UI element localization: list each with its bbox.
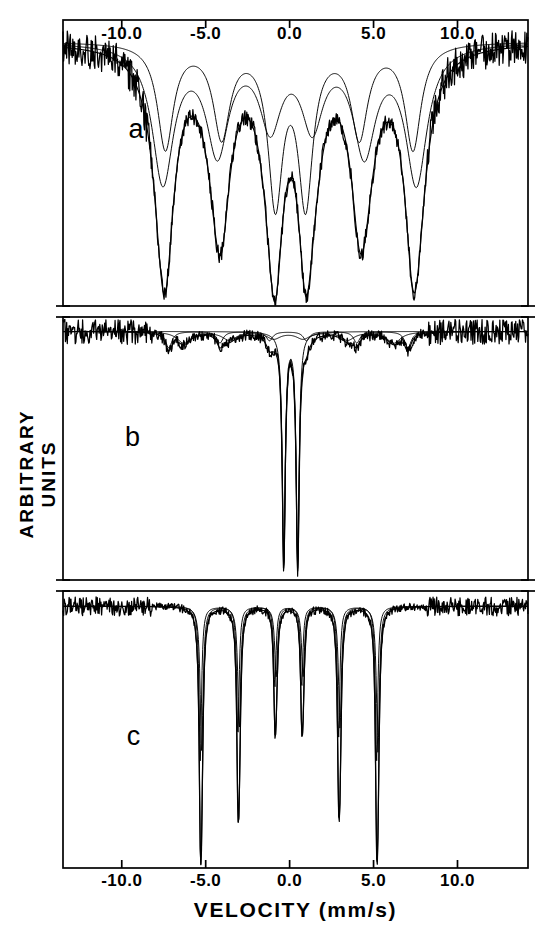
x-tick-label-bottom-4: 10.0 <box>427 871 487 891</box>
panel-letter-a: a <box>128 114 143 145</box>
y-axis-label: ARBITRARY UNITS <box>16 374 60 574</box>
spectra-plot-svg <box>0 0 555 949</box>
experimental-data-curve <box>63 31 528 305</box>
x-axis-label: VELOCITY (mm/s) <box>63 898 528 922</box>
x-tick-label-top-3: 5.0 <box>344 24 404 44</box>
x-tick-label-top-2: 0.0 <box>260 24 320 44</box>
x-tick-label-bottom-0: -10.0 <box>92 871 152 891</box>
x-tick-label-top-1: -5.0 <box>176 24 236 44</box>
panel-letter-b: b <box>125 422 140 453</box>
x-tick-label-bottom-1: -5.0 <box>176 871 236 891</box>
x-tick-label-bottom-3: 5.0 <box>344 871 404 891</box>
x-tick-label-top-4: 10.0 <box>427 24 487 44</box>
mossbauer-figure: ARBITRARY UNITS VELOCITY (mm/s) -10.0-10… <box>0 0 555 949</box>
x-tick-label-top-0: -10.0 <box>92 24 152 44</box>
panel-letter-c: c <box>127 721 141 752</box>
x-tick-label-bottom-2: 0.0 <box>260 871 320 891</box>
